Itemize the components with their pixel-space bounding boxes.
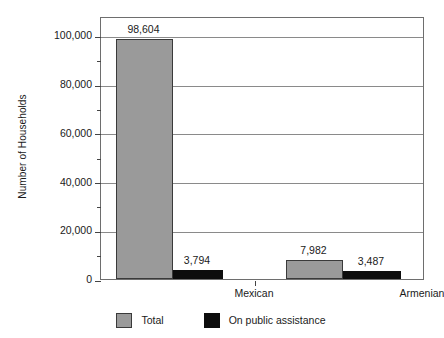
legend-label-assistance: On public assistance: [229, 314, 326, 326]
y-tick-major: [95, 281, 101, 282]
bar-value-label: 3,794: [184, 254, 210, 266]
y-tick-major: [95, 86, 101, 87]
chart-legend: Total On public assistance: [0, 308, 442, 332]
y-tick-label: 80,000: [0, 78, 92, 90]
y-tick-major: [95, 37, 101, 38]
bar-value-label: 98,604: [127, 23, 159, 35]
assistance-swatch: [204, 313, 220, 328]
y-tick-minor: [97, 61, 101, 62]
y-tick-label: 20,000: [0, 224, 92, 236]
bar-mexican-assist: [173, 270, 223, 279]
gridline: [101, 37, 423, 38]
y-tick-label: 100,000: [0, 29, 92, 41]
y-tick-major: [95, 232, 101, 233]
x-axis-category-armenian: Armenian: [400, 287, 444, 299]
legend-label-total: Total: [141, 314, 163, 326]
bar-armenian-assist: [343, 271, 401, 279]
y-tick-label: 0: [0, 273, 92, 285]
bar-value-label: 3,487: [358, 255, 384, 267]
bar-value-label: 7,982: [300, 244, 326, 256]
y-tick-major: [95, 134, 101, 135]
bar-armenian-total: [286, 260, 343, 279]
x-axis-tick: [255, 281, 256, 286]
y-tick-minor: [97, 159, 101, 160]
y-tick-label: 60,000: [0, 127, 92, 139]
y-tick-minor: [97, 256, 101, 257]
y-tick-major: [95, 183, 101, 184]
legend-entry-total: Total: [116, 313, 163, 328]
legend-entry-assistance: On public assistance: [204, 313, 326, 328]
total-swatch: [116, 313, 132, 328]
plot-area: [100, 17, 424, 280]
x-axis-category-mexican: Mexican: [234, 287, 273, 299]
y-tick-minor: [97, 110, 101, 111]
y-tick-minor: [97, 207, 101, 208]
y-tick-label: 40,000: [0, 176, 92, 188]
bar-mexican-total: [116, 39, 173, 279]
